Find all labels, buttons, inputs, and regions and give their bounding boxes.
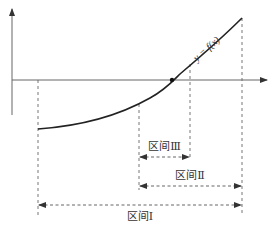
interval-2: 区间Ⅱ [140,169,241,186]
root-point [170,78,174,82]
function-curve [38,18,242,129]
interval-diagram: y = f(x) 区间Ⅲ 区间Ⅱ 区间Ⅰ [0,0,272,230]
interval-2-label: 区间Ⅱ [175,169,204,182]
function-label: y = f(x) [190,34,223,65]
interval-1: 区间Ⅰ [39,205,241,223]
interval-3: 区间Ⅲ [140,140,189,157]
interval-1-label: 区间Ⅰ [127,210,153,223]
interval-3-label: 区间Ⅲ [148,140,181,153]
